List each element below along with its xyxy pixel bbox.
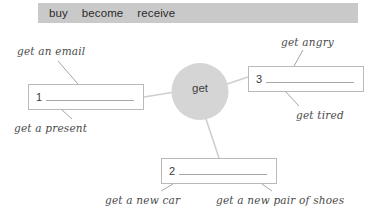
center-node-label: get	[172, 82, 228, 94]
leader-get-a-present	[62, 110, 72, 119]
connector-node-to-box2	[206, 119, 219, 158]
answer-box-1-blank[interactable]	[46, 100, 134, 101]
answer-box-1[interactable]: 1	[28, 84, 144, 110]
answer-box-1-number: 1	[36, 92, 42, 103]
answer-box-2-blank[interactable]	[179, 174, 267, 175]
leader-get-an-email	[58, 61, 78, 84]
answer-box-3-number: 3	[256, 74, 262, 85]
annotation-get-an-email: get an email	[17, 45, 85, 57]
annotation-get-a-new-car: get a new car	[105, 194, 180, 206]
answer-box-3-blank[interactable]	[266, 82, 354, 83]
leader-get-a-new-pair-of-shoes	[262, 184, 272, 191]
leader-get-tired	[286, 92, 299, 106]
annotation-get-a-present: get a present	[14, 122, 87, 134]
worksheet-page: buy become receive get 1 2 3 get an emai…	[0, 0, 381, 219]
answer-box-2-number: 2	[169, 166, 175, 177]
annotation-get-a-new-pair-of-shoes: get a new pair of shoes	[216, 194, 344, 206]
annotation-get-angry: get angry	[281, 36, 334, 48]
answer-box-3[interactable]: 3	[248, 66, 364, 92]
leader-get-angry	[294, 50, 303, 66]
leader-get-a-new-car	[161, 184, 173, 191]
annotation-get-tired: get tired	[296, 109, 344, 121]
connector-node-to-box1	[144, 92, 175, 97]
answer-box-2[interactable]: 2	[161, 158, 277, 184]
